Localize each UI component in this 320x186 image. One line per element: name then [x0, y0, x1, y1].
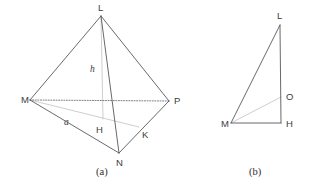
panel-b-right-triangle: LMHO(b) [221, 10, 293, 178]
vertex-label-n-a: N [116, 157, 123, 168]
edge-light-mo-b [231, 97, 281, 123]
edge-hidden-mp-a [30, 100, 169, 101]
edge-light-mk-a [30, 100, 139, 127]
vertex-label-o-b: O [286, 91, 293, 102]
vertex-label-l-b: L [277, 10, 282, 21]
edge-lh-b [280, 25, 281, 123]
vertex-label-h-b: H [286, 118, 293, 129]
geometry-figure: LMPNHKha(a) LMHO(b) [0, 0, 320, 186]
figure-container: LMPNHKha(a) LMHO(b) [0, 0, 320, 186]
edge-lp-a [101, 16, 169, 101]
panel-a-tetrahedron: LMPNHKha(a) [21, 2, 180, 178]
edge-np-a [119, 101, 169, 153]
measure-label-h-a: h [90, 64, 95, 74]
vertex-label-l-a: L [98, 2, 103, 13]
vertex-label-p-a: P [174, 95, 180, 106]
measure-label-a-a: a [64, 117, 69, 127]
vertex-label-k-a: K [142, 129, 149, 140]
vertex-label-h-a: H [96, 124, 103, 135]
vertex-label-m-b: M [221, 118, 229, 129]
caption-a: (a) [96, 166, 108, 178]
caption-b: (b) [249, 166, 262, 178]
vertex-label-m-a: M [21, 94, 29, 105]
edge-mn-a [30, 100, 119, 153]
edge-ln-a [101, 16, 119, 153]
edge-ml-b [231, 25, 280, 123]
edge-lm-a [30, 16, 101, 100]
